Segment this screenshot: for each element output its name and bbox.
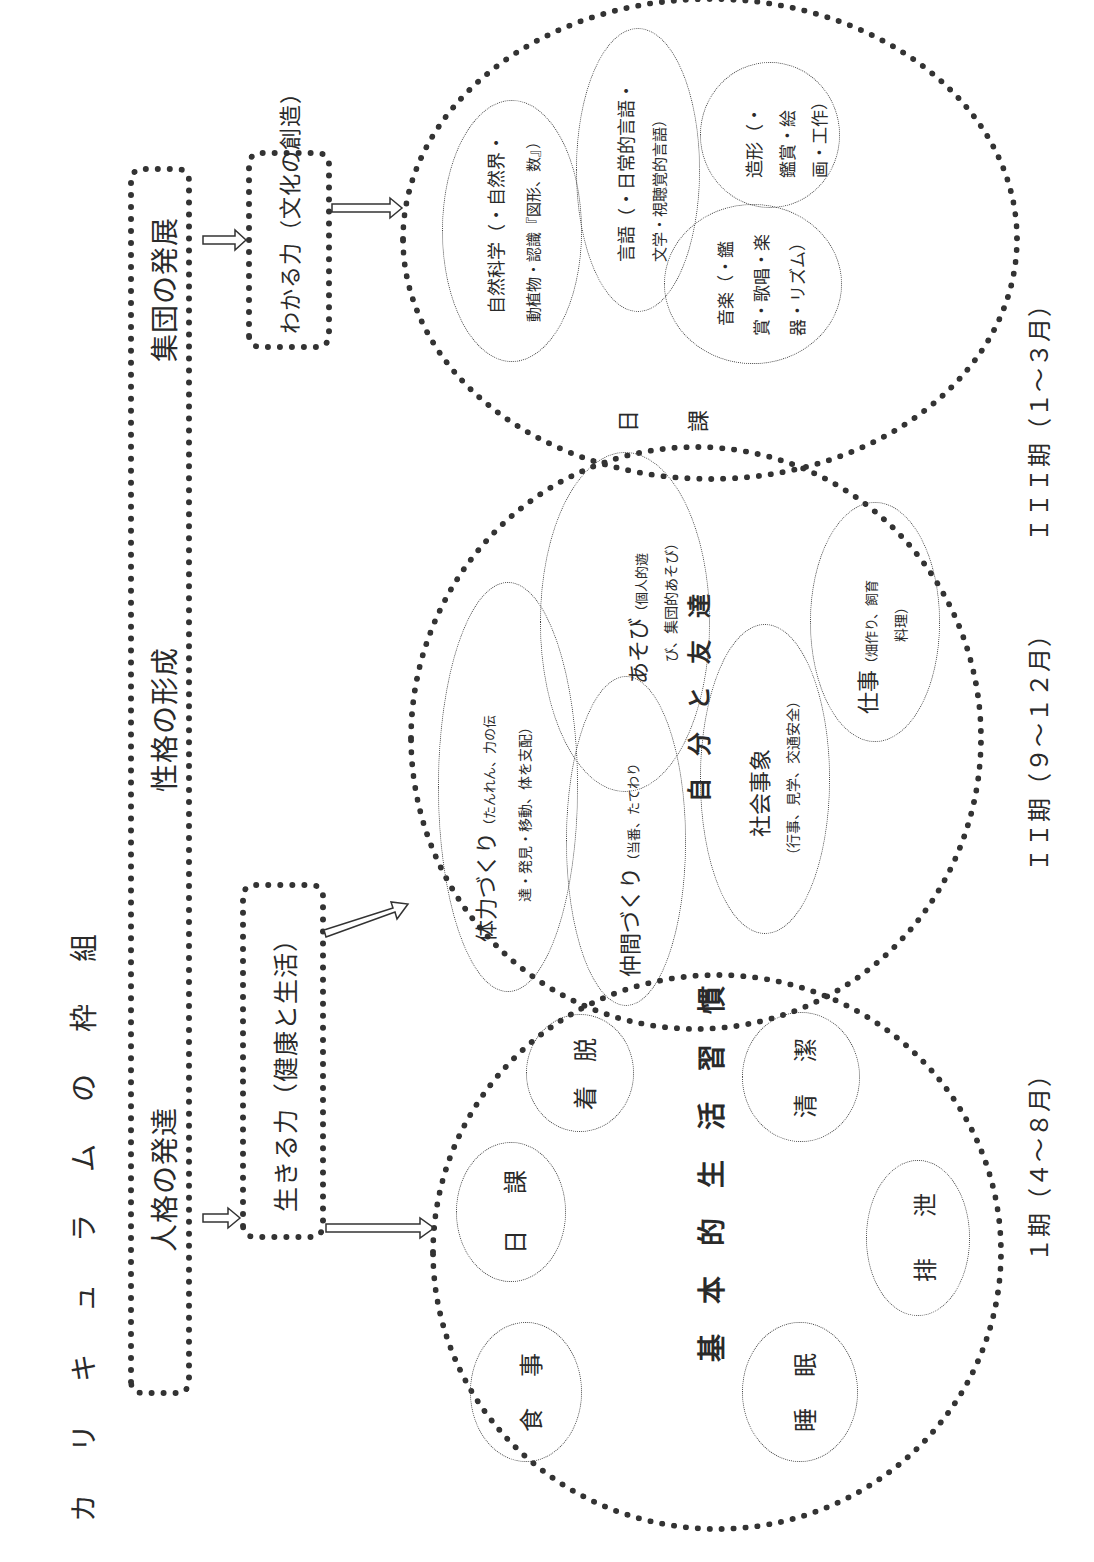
arrow-icon (332, 198, 402, 218)
social-events-detail: （行事、見学、交通安全） (782, 694, 802, 862)
fitness-title: 体力づくり (474, 832, 499, 942)
period-2: ＩＩ期（９～１２月） (1020, 622, 1055, 872)
arrow-icon (324, 902, 408, 937)
label-char: 習 (690, 1044, 730, 1072)
language-line2: 文学・視聴覚的言語） (648, 112, 669, 262)
habit-excretion-char: 泄 (906, 1192, 941, 1217)
play-line2: び、集団的あそび） (660, 536, 680, 662)
peer-building-label: 仲間づくり（当番、たてわり (612, 763, 644, 977)
natural-science-line1: 自然科学（・自然界・ (482, 134, 508, 314)
work-line2: 料理） (890, 600, 910, 642)
daily-lessons-char: 課 (680, 409, 712, 432)
habit-sleep-char: 眠 (786, 1352, 821, 1377)
habit-cleanliness-char: 潔 (786, 1037, 821, 1062)
habit-cleanliness-char: 清 (786, 1093, 821, 1118)
habit-cleanliness-oval (742, 1012, 860, 1142)
fitness-line2: 達・発見・移動、体を支配） (514, 720, 534, 902)
language-line1: 言語（・日常的言語・ (612, 82, 638, 262)
natural-science-line2: 動植物・認識『図形、数』） (522, 134, 543, 322)
habit-meal-char: 食 (512, 1407, 547, 1432)
play-line1: あそび（個人的遊 (620, 553, 652, 684)
period-3: ＩＩＩ期（１～３月） (1020, 292, 1055, 542)
work-line1: 仕事（畑作り、飼育 (850, 580, 882, 714)
diagram-canvas: カ リ キ ュ ラ ム の 枠 組 人格の発達 性格の形成 集団の発展 生きる力… (0, 0, 1094, 1562)
label-char: 本 (690, 1276, 730, 1304)
music-line3: 器・リズム） (784, 234, 809, 336)
fitness-detail: （たんれん、力の伝 (482, 715, 497, 832)
arrow-icon (326, 1218, 434, 1238)
natural-science-oval (442, 100, 582, 362)
art-line3: 画・工作） (806, 93, 831, 178)
habit-meal-oval (470, 1322, 582, 1462)
label-char: 基 (690, 1334, 730, 1362)
arrow-icon (203, 230, 246, 250)
social-events-title: 社会事象 (742, 749, 774, 837)
arrow-icon (203, 1208, 240, 1228)
daily-lessons-char: 日 (610, 409, 642, 432)
habit-excretion-char: 排 (906, 1257, 941, 1282)
habit-meal-char: 事 (512, 1352, 547, 1377)
habit-sleep-char: 睡 (786, 1407, 821, 1432)
work-detail: （畑作り、飼育 (864, 580, 879, 670)
basic-habits-label: 基 本 的 生 活 習 慣 (690, 1132, 730, 1362)
play-title: あそび (626, 618, 651, 684)
fitness-line1: 体力づくり（たんれん、力の伝 (468, 715, 500, 942)
arrow-icon (203, 198, 434, 1238)
habit-daily-oval (456, 1142, 566, 1282)
work-title: 仕事 (856, 670, 881, 714)
art-line2: 鑑賞・絵 (774, 110, 799, 178)
period-1: １期（４～８月） (1020, 1062, 1055, 1262)
art-line1: 造形（・ (740, 106, 766, 178)
peer-building-title: 仲間づくり (618, 867, 643, 977)
habit-dressing-oval (526, 1014, 634, 1132)
habit-dressing-char: 脱 (566, 1037, 601, 1062)
music-line2: 賞・歌唱・楽 (748, 234, 773, 336)
habit-excretion-oval (866, 1160, 970, 1316)
label-char: 的 (690, 1218, 730, 1246)
label-char: 活 (690, 1102, 730, 1130)
habit-daily-char: 課 (496, 1169, 531, 1194)
label-char: 生 (690, 1160, 730, 1188)
play-detail: （個人的遊 (634, 553, 649, 618)
music-line1: 音楽（・鑑 (712, 241, 737, 326)
habit-dressing-char: 着 (566, 1085, 601, 1110)
habit-sleep-oval (742, 1322, 858, 1462)
habit-daily-char: 日 (496, 1229, 531, 1254)
